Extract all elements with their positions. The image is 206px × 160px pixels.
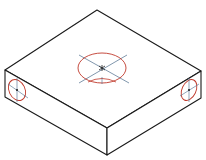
- isometric-diagram: Isometric block with drilled holes: [0, 0, 206, 160]
- center-dot: [188, 89, 190, 91]
- block: [5, 10, 201, 155]
- center-dot: [16, 89, 18, 91]
